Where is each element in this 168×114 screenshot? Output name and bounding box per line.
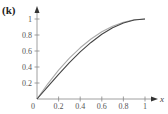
x-tick-label: 0.2 [54, 102, 64, 111]
curve-light [37, 19, 145, 99]
curves [37, 19, 145, 99]
y-tick-label: 0.6 [22, 47, 32, 56]
origin-label: 0 [31, 102, 35, 111]
x-tick-label: 0.8 [118, 102, 128, 111]
y-tick-label: 0.4 [22, 63, 32, 72]
x-axis-arrow-icon [151, 97, 158, 102]
y-axis-arrow-icon [35, 6, 40, 13]
x-tick-label: 1 [143, 102, 147, 111]
x-tick-label: 0.4 [75, 102, 85, 111]
y-tick-label: 0.8 [22, 31, 32, 40]
chart: x 0 0.20.40.60.81 0.20.40.60.81 [0, 0, 168, 114]
x-tick-label: 0.6 [97, 102, 107, 111]
x-axis-label: x [159, 94, 164, 104]
curve-dark [37, 19, 145, 99]
y-tick-label: 1 [28, 15, 32, 24]
y-tick-label: 0.2 [22, 79, 32, 88]
